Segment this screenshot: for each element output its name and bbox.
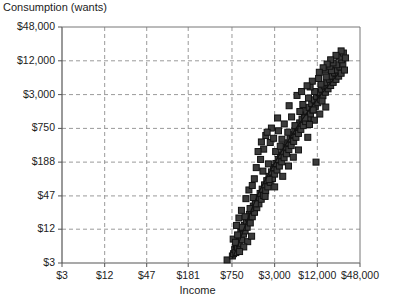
data-point bbox=[279, 136, 285, 142]
data-point bbox=[297, 108, 303, 114]
data-point bbox=[286, 103, 292, 109]
data-point bbox=[261, 146, 267, 152]
y-tick-label: $3,000 bbox=[0, 88, 55, 100]
data-point bbox=[318, 81, 324, 87]
x-tick-label: $48,000 bbox=[328, 269, 392, 281]
data-point bbox=[243, 196, 249, 202]
data-point bbox=[316, 76, 322, 82]
data-point bbox=[276, 128, 282, 134]
data-point bbox=[260, 168, 266, 174]
data-point bbox=[289, 114, 295, 120]
data-point bbox=[280, 173, 286, 179]
data-point bbox=[319, 98, 325, 104]
data-point bbox=[258, 156, 264, 162]
data-point bbox=[341, 67, 347, 73]
data-point bbox=[249, 183, 255, 189]
scatter-chart: Consumption (wants) Income $3$12$47$188$… bbox=[0, 0, 395, 304]
data-point bbox=[295, 147, 301, 153]
data-point bbox=[305, 95, 311, 101]
data-point bbox=[249, 233, 255, 239]
data-point bbox=[235, 232, 241, 238]
y-tick-label: $48,000 bbox=[0, 20, 55, 32]
y-tick-label: $12 bbox=[0, 222, 55, 234]
data-point bbox=[258, 139, 264, 145]
data-point bbox=[277, 143, 283, 149]
data-point bbox=[317, 111, 323, 117]
y-tick-label: $750 bbox=[0, 121, 55, 133]
data-point bbox=[275, 115, 281, 121]
data-point bbox=[300, 101, 306, 107]
plot-area bbox=[0, 0, 395, 304]
data-point bbox=[285, 163, 291, 169]
data-point bbox=[306, 121, 312, 127]
data-point bbox=[238, 207, 244, 213]
data-point bbox=[304, 83, 310, 89]
data-point bbox=[255, 149, 261, 155]
y-tick-label: $188 bbox=[0, 155, 55, 167]
data-point bbox=[247, 220, 253, 226]
data-point bbox=[290, 154, 296, 160]
data-point bbox=[323, 74, 329, 80]
data-point bbox=[253, 165, 259, 171]
y-tick-label: $12,000 bbox=[0, 54, 55, 66]
data-point bbox=[285, 129, 291, 135]
data-point bbox=[271, 135, 277, 141]
data-point bbox=[234, 222, 240, 228]
data-point bbox=[265, 161, 271, 167]
data-point bbox=[305, 134, 311, 140]
data-point bbox=[264, 129, 270, 135]
data-point bbox=[237, 249, 243, 255]
y-tick-label: $47 bbox=[0, 189, 55, 201]
gridlines bbox=[62, 27, 360, 263]
data-point bbox=[236, 215, 242, 221]
data-point bbox=[281, 121, 287, 127]
y-tick-label: $3 bbox=[0, 256, 55, 268]
data-point bbox=[323, 104, 329, 110]
data-point bbox=[313, 159, 319, 165]
tick-marks bbox=[58, 27, 360, 267]
data-point bbox=[262, 193, 268, 199]
data-point bbox=[316, 69, 322, 75]
axis-frame bbox=[62, 27, 360, 263]
data-point bbox=[272, 184, 278, 190]
data-point bbox=[251, 176, 257, 182]
data-point bbox=[343, 55, 349, 61]
data-point bbox=[299, 89, 305, 95]
